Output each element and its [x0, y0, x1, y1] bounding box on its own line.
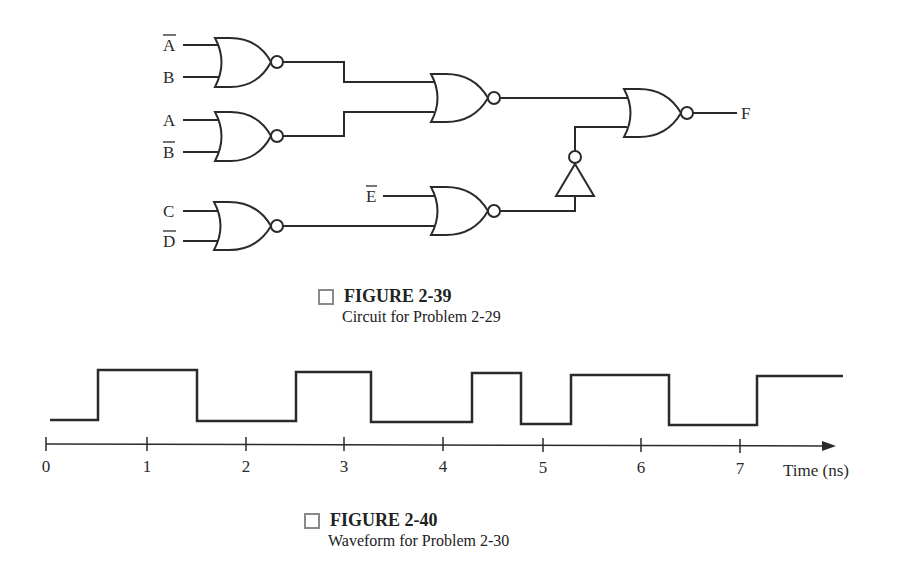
tick-label-1: 1 — [143, 457, 152, 476]
input-label-b-bar: B — [163, 143, 174, 162]
nor-gate-2 — [183, 112, 283, 161]
nor-gate-5 — [431, 187, 500, 235]
wire-g2-g4 — [283, 112, 434, 136]
waveform-chart: 0 1 2 3 4 5 6 7 Time (ns) — [0, 350, 900, 500]
input-label-c: C — [163, 202, 174, 221]
input-label-d-bar: D — [163, 232, 175, 251]
inverter-gate — [556, 151, 594, 196]
tick-label-7: 7 — [736, 459, 745, 478]
tick-label-3: 3 — [340, 457, 349, 476]
figure-2-39-caption: FIGURE 2-39 Circuit for Problem 2-29 — [318, 286, 501, 326]
input-label-a: A — [163, 111, 176, 130]
nor-gate-3 — [183, 202, 283, 250]
wire-g5-inverter — [500, 196, 575, 211]
axis-label-time: Time (ns) — [783, 461, 849, 480]
nor-gate-6 — [624, 89, 737, 137]
input-label-b: B — [163, 68, 174, 87]
figure-2-40-caption-text: Waveform for Problem 2-30 — [328, 532, 509, 550]
time-axis — [46, 437, 836, 453]
tick-label-0: 0 — [42, 457, 51, 476]
input-label-a-bar: A — [163, 36, 176, 55]
waveform-signal — [50, 370, 843, 425]
circuit-diagram: A B A B C D E F — [0, 0, 900, 290]
tick-label-5: 5 — [539, 458, 548, 477]
tick-label-6: 6 — [637, 458, 646, 477]
tick-label-4: 4 — [439, 457, 448, 476]
figure-2-39-caption-text: Circuit for Problem 2-29 — [342, 308, 501, 326]
nor-gate-4 — [431, 74, 500, 122]
output-label-f: F — [741, 104, 750, 123]
wire-inverter-g6 — [575, 127, 627, 151]
wire-g1-g4 — [283, 62, 434, 82]
tick-label-2: 2 — [242, 457, 251, 476]
figure-2-39-label: FIGURE 2-39 — [344, 286, 452, 307]
figure-2-40-label: FIGURE 2-40 — [330, 510, 438, 531]
figure-marker-icon — [304, 513, 320, 529]
nor-gate-1 — [183, 38, 283, 87]
figure-2-40-caption: FIGURE 2-40 Waveform for Problem 2-30 — [304, 510, 509, 550]
input-label-e-bar: E — [366, 187, 376, 206]
figure-marker-icon — [318, 289, 334, 305]
